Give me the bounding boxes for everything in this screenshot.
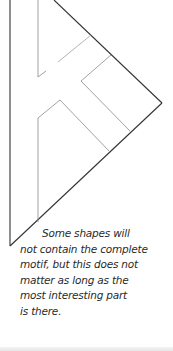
inner-motif-outline [38,0,130,222]
lower-diagonal-edge [10,103,162,246]
caption-line: is there. [20,304,170,320]
upper-diagonal-edge [54,0,162,103]
caption-line: not contain the complete [20,242,170,258]
caption-text: Some shapes will not contain the complet… [20,226,170,319]
page: Some shapes will not contain the complet… [0,0,173,347]
outer-triangle-outline [10,0,162,246]
triangle-motif-diagram [0,0,173,260]
motif-middle-notch [81,55,130,131]
page-bottom-edge [0,347,173,351]
motif-upper-arm [58,35,91,62]
caption-line: most interesting part [20,288,170,304]
caption-line: matter as long as the [20,273,170,289]
motif-top-stem [38,0,46,77]
motif-lower-arm [38,100,110,222]
caption-line: motif, but this does not [20,257,170,273]
caption-line: Some shapes will [20,226,170,242]
